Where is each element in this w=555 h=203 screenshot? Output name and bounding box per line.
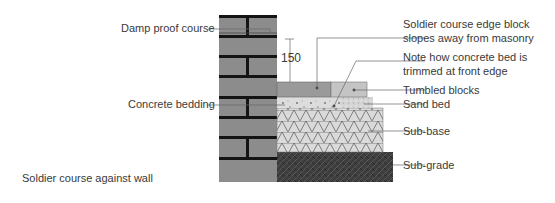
- label-concrete-bedding: Concrete bedding: [128, 98, 215, 111]
- label-sub-grade: Sub-grade: [403, 159, 454, 172]
- label-sand-bed: Sand bed: [403, 98, 450, 111]
- figure-caption: Soldier course against wall: [22, 172, 153, 185]
- label-damp-proof-course: Damp proof course: [121, 22, 215, 35]
- label-concrete-bed-note-line2: trimmed at front edge: [403, 65, 508, 78]
- label-sub-base: Sub-base: [403, 125, 450, 138]
- sub-base-layer: [277, 108, 383, 152]
- label-soldier-course-line1: Soldier course edge block: [403, 18, 530, 31]
- label-dimension-150: 150: [281, 52, 301, 65]
- tumbled-block: [331, 82, 367, 97]
- soldier-course-block: [277, 82, 331, 97]
- sub-grade-layer: [277, 152, 393, 182]
- label-tumbled-blocks: Tumbled blocks: [403, 84, 480, 97]
- brick-wall: [219, 15, 277, 182]
- concrete-bed-layer: [277, 97, 340, 108]
- label-soldier-course-line2: slopes away from masonry: [403, 32, 534, 45]
- sand-bed-layer: [340, 97, 373, 108]
- label-concrete-bed-note-line1: Note how concrete bed is: [403, 51, 527, 64]
